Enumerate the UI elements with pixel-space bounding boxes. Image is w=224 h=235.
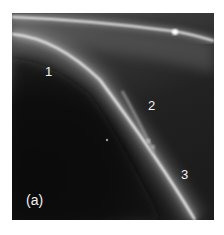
micrograph-image xyxy=(12,13,214,220)
panel-label: (a) xyxy=(26,193,43,207)
curve-label-1: 1 xyxy=(45,65,52,78)
curve-label-3: 3 xyxy=(181,168,188,181)
curve-label-2: 2 xyxy=(148,99,155,112)
micrograph-panel: 1 2 3 (a) xyxy=(12,13,214,220)
speck xyxy=(106,139,108,141)
bright-spot xyxy=(172,29,178,35)
